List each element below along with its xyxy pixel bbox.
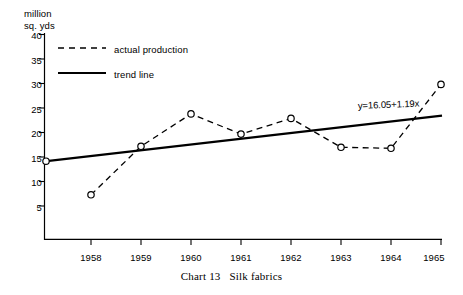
- y-axis-ticks: [39, 35, 45, 207]
- legend-swatches: [58, 48, 106, 73]
- chart-canvas: [0, 0, 463, 295]
- chart-figure: million sq. yds 40 35 30 25 20 15 10 5 1…: [0, 0, 463, 295]
- data-point-1959: [138, 143, 144, 149]
- data-point-1963: [338, 144, 344, 150]
- data-point-1965: [438, 81, 444, 87]
- data-point-1958: [88, 192, 94, 198]
- data-point-1964: [388, 145, 394, 151]
- x-axis-ticks: [91, 239, 441, 245]
- data-point-1960: [188, 111, 194, 117]
- data-point-1961: [238, 131, 244, 137]
- series-actual-production-line: [91, 84, 441, 194]
- series-trend-line: [45, 116, 443, 162]
- data-point-1962: [288, 115, 294, 121]
- data-point-trend-origin: [43, 158, 49, 164]
